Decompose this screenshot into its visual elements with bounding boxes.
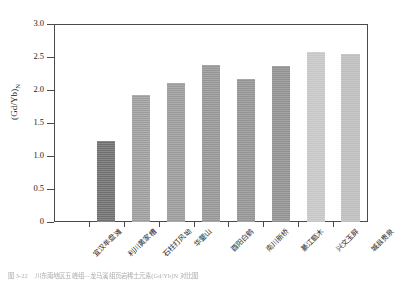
y-axis-tick (47, 123, 54, 124)
bar (167, 83, 185, 222)
x-axis-category-label: 宜汉牟盘滩 (91, 226, 124, 259)
y-axis-tick (47, 57, 54, 58)
bar (97, 141, 115, 222)
y-axis-tick (47, 24, 54, 25)
bar (341, 54, 359, 222)
x-axis-category-label: 綦江甑木 (298, 226, 325, 253)
chart-plot-wrapper: (Gd/Yb)N 3.02.52.01.51.00.50 宜汉牟盘滩利川黄家槽石… (0, 0, 385, 266)
y-axis-tick-label: 1.0 (4, 151, 44, 160)
x-axis-category-label: 酉阳白鹤 (228, 226, 255, 253)
bars-layer (54, 24, 368, 222)
y-axis-tick (47, 90, 54, 91)
y-axis-title-main: (Gd/Yb) (9, 89, 19, 120)
x-axis-category-label: 石柱打风坳 (161, 226, 194, 259)
bar (272, 66, 290, 222)
bar (237, 79, 255, 222)
x-axis-labels: 宜汉牟盘滩利川黄家槽石柱打风坳华蓥山酉阳白鹤南川新桥綦江甑木兴文玉屏城县贵泉 (54, 226, 368, 270)
x-axis-category-label: 城县贵泉 (368, 226, 395, 253)
figure-caption: 图 3-22川东南地区五峰组—龙马溪组页岩稀土元素(Gd/Yb)N 对比图 (8, 272, 378, 280)
y-axis-tick (47, 156, 54, 157)
y-axis-title: (Gd/Yb)N (9, 57, 21, 147)
figure-caption-text: 川东南地区五峰组—龙马溪组页岩稀土元素(Gd/Yb)N 对比图 (35, 272, 198, 279)
y-axis-title-subscript: N (14, 84, 21, 89)
bar (202, 65, 220, 222)
y-axis-tick (47, 189, 54, 190)
y-axis-tick-label: 3.0 (4, 19, 44, 28)
x-axis-category-label: 利川黄家槽 (126, 226, 159, 259)
bar (132, 95, 150, 222)
y-axis-tick-label: 0.5 (4, 184, 44, 193)
x-axis-category-label: 华蓥山 (191, 226, 213, 248)
figure-caption-number: 图 3-22 (8, 272, 28, 279)
y-axis-tick-label: 0 (4, 217, 44, 226)
y-axis-tick (47, 222, 54, 223)
x-axis-category-label: 南川新桥 (263, 226, 290, 253)
x-axis-category-label: 兴文玉屏 (333, 226, 360, 253)
bar (307, 52, 325, 222)
